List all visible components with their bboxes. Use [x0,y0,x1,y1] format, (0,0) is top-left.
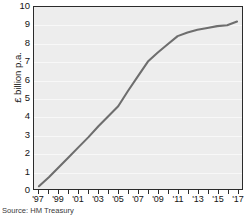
series-line-chart [34,7,242,189]
y-tick-label: 10 [19,1,30,11]
x-tick-label: '05 [112,194,124,204]
y-tick-label: 6 [25,75,30,85]
x-tick-label: '03 [92,194,104,204]
x-tick-label: '97 [32,194,44,204]
x-tick-label: '07 [132,194,144,204]
y-axis-tick-labels: 012345678910 [12,0,30,196]
x-tick-label: '09 [152,194,164,204]
x-tick-label: '01 [72,194,84,204]
y-tick-label: 3 [25,130,30,140]
x-tick-label: '17 [232,194,244,204]
series-line-uk [39,22,237,187]
chart-figure: £ billion p.a. 012345678910 '97'99'01'03… [0,0,249,217]
y-tick-label: 0 [25,185,30,195]
y-tick-label: 7 [25,56,30,66]
plot-area [33,6,243,190]
y-tick-label: 4 [25,111,30,121]
y-tick-label: 2 [25,148,30,158]
x-tick-label: '15 [212,194,224,204]
x-axis-tick-labels: '97'99'01'03'05'07'09'11'13'15'17 [33,194,243,206]
y-tick-label: 8 [25,38,30,48]
y-tick-label: 5 [25,93,30,103]
y-tick-label: 9 [25,19,30,29]
x-tick-label: '11 [172,194,183,204]
source-note: Source: HM Treasury [2,207,74,215]
x-tick-label: '13 [192,194,204,204]
x-tick-label: '99 [52,194,64,204]
y-tick-label: 1 [25,167,30,177]
